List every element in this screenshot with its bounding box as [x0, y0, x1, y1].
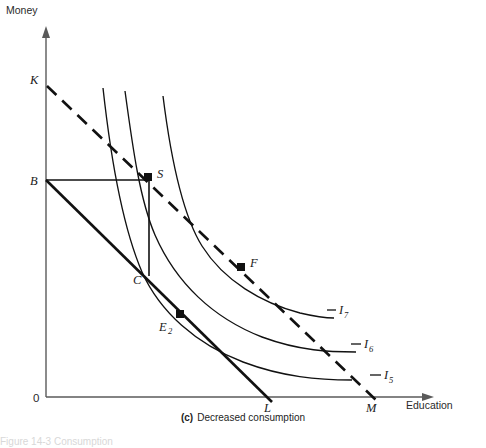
- budget-line-BL: [46, 180, 272, 402]
- point-label-B: B: [30, 174, 38, 188]
- point-label-E2-base: E: [158, 320, 167, 334]
- connector-group: [46, 178, 150, 276]
- point-marker-E2: [176, 310, 184, 318]
- panel-caption: (c)Decreased consumption: [0, 412, 486, 423]
- indifference-curve-I5: [103, 88, 352, 380]
- figure-root: K B S C E 2 F L M I 7 I 6: [0, 0, 486, 448]
- budget-line-KM: [47, 86, 376, 400]
- indifference-curves-group: [103, 88, 356, 380]
- curve-label-I6-subscript: 6: [369, 344, 374, 354]
- indifference-curve-I7: [163, 96, 334, 318]
- curve-label-I7: I 7: [338, 303, 349, 320]
- curve-label-I7-subscript: 7: [344, 310, 349, 320]
- panel-caption-letter: (c): [181, 412, 193, 423]
- point-marker-S: [144, 173, 152, 181]
- economics-indifference-diagram: K B S C E 2 F L M I 7 I 6: [0, 0, 486, 448]
- curve-label-I5-subscript: 5: [389, 375, 393, 385]
- curve-label-I6: I 6: [363, 337, 374, 354]
- point-marker-F: [237, 263, 245, 271]
- y-axis-label: Money: [6, 4, 38, 16]
- point-label-C: C: [133, 273, 142, 287]
- y-axis-arrow-icon: [42, 26, 50, 38]
- budget-lines-group: [46, 86, 376, 402]
- point-label-E2: E 2: [158, 320, 173, 336]
- curve-label-I5: I 5: [383, 368, 393, 385]
- point-label-K: K: [29, 73, 39, 87]
- indifference-curve-I6: [125, 91, 356, 352]
- footer-fragment: Figure 14-3 Consumption: [0, 436, 486, 448]
- panel-caption-text: Decreased consumption: [197, 412, 305, 423]
- x-axis-label: Education: [406, 399, 453, 411]
- axis-group: [42, 26, 434, 401]
- point-labels-group: K B S C E 2 F L M: [29, 73, 377, 415]
- origin-label: 0: [33, 392, 39, 404]
- point-label-S: S: [157, 167, 164, 181]
- curve-labels-group: I 7 I 6 I 5: [327, 303, 393, 385]
- point-label-E2-subscript: 2: [168, 326, 173, 336]
- point-label-F: F: [249, 256, 258, 270]
